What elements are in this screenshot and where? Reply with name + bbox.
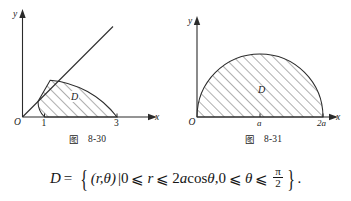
y-axis-label: y	[188, 16, 192, 26]
caption-cjk-label: 图	[245, 132, 255, 146]
fraction-pi-over-2: π 2	[273, 166, 283, 189]
x-tick-label-3: 3	[114, 118, 119, 128]
figures-row: y x O 1 3 D 图8-30	[0, 0, 351, 156]
le-4: ⩽	[252, 170, 271, 188]
figure-8-30-drawing	[0, 0, 175, 131]
formula-pair: (r,θ)	[91, 170, 116, 187]
cond2-var: θ	[245, 170, 252, 187]
x-tick-label-a: a	[257, 118, 262, 128]
x-axis-label: x	[155, 112, 159, 122]
textbook-figure-page: y x O 1 3 D 图8-30	[0, 0, 351, 201]
brace-open: {	[81, 169, 89, 189]
origin-label: O	[189, 117, 196, 127]
cond1-upper-coefficient: 2	[172, 170, 180, 187]
formula-equals: =	[61, 170, 75, 187]
y-axis	[19, 9, 25, 117]
region-label-D: D	[258, 84, 265, 95]
cond2-lower: 0	[218, 170, 226, 187]
y-axis-label: y	[13, 9, 17, 19]
figure-8-30: y x O 1 3 D 图8-30	[0, 0, 175, 156]
le-2: ⩽	[153, 170, 172, 188]
x-tick-label-2a: 2a	[317, 118, 326, 128]
cond1-upper-cos: cos	[187, 170, 207, 187]
origin-label: O	[14, 117, 21, 127]
x-tick-label-1: 1	[42, 118, 47, 128]
x-axis-label: x	[336, 112, 340, 122]
brace-close: }	[287, 169, 295, 189]
formula-line: D = { (r,θ) | 0 ⩽ r ⩽ 2acosθ , 0 ⩽ θ ⩽ π…	[0, 156, 351, 201]
figure-caption: 图8-31	[176, 131, 351, 145]
figure-8-31-drawing	[176, 0, 351, 131]
fraction-numerator: π	[273, 166, 283, 177]
formula-lhs: D	[50, 170, 61, 187]
region-label-D: D	[70, 91, 79, 102]
cond1-upper-a: a	[180, 170, 188, 187]
formula-period: .	[297, 170, 301, 187]
figure-caption: 图8-30	[0, 131, 175, 145]
cond1-lower: 0	[121, 170, 129, 187]
caption-cjk-label: 图	[69, 132, 79, 146]
le-1: ⩽	[128, 170, 147, 188]
figure-8-31: y x O a 2a D 图8-31	[176, 0, 351, 156]
caption-number: 8-31	[264, 134, 282, 144]
caption-number: 8-30	[88, 134, 106, 144]
cond1-upper-theta: θ	[207, 170, 214, 187]
fraction-denominator: 2	[273, 177, 283, 189]
le-3: ⩽	[226, 170, 245, 188]
